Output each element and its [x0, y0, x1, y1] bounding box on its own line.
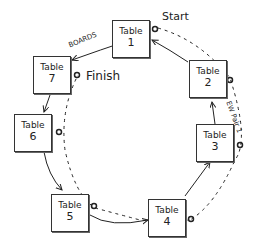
- table-5: Table5: [51, 194, 89, 232]
- boards-arrow-5-4: [90, 215, 148, 223]
- start-label: Start: [162, 10, 189, 23]
- boards-arrow-3-2: [212, 102, 215, 124]
- ew-pair-marker-6: [57, 130, 62, 135]
- ew-pair-marker-3: [238, 143, 243, 148]
- boards-arrow-7-6: [44, 95, 50, 112]
- ew-pair-marker-4: [189, 217, 194, 222]
- table-6: Table6: [14, 114, 52, 152]
- table-7: Table7: [33, 56, 71, 94]
- finish-label: Finish: [86, 69, 120, 83]
- table-4: Table4: [148, 199, 186, 237]
- boards-arrow-6-5: [44, 152, 62, 190]
- boards-arrow-4-3: [185, 162, 210, 196]
- finish-marker: [75, 73, 80, 78]
- boards-arrow-2-1: [152, 40, 188, 62]
- ew-pair-marker-2: [228, 78, 233, 83]
- start-marker: [153, 27, 158, 32]
- ew-pair-marker-5: [92, 204, 97, 209]
- table-2: Table2: [189, 60, 227, 98]
- table-3: Table3: [196, 124, 234, 162]
- table-1: Table1: [112, 20, 150, 58]
